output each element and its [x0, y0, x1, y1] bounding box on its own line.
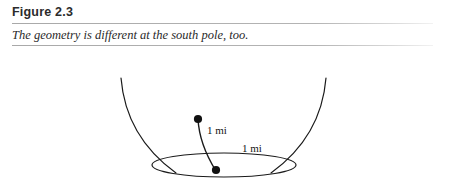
figure-page: Figure 2.3 The geometry is different at … — [0, 0, 458, 179]
header-rule-bottom — [12, 45, 433, 46]
lower-endpoint-dot — [212, 166, 220, 174]
figure-diagram: 1 mi 1 mi — [0, 55, 458, 179]
figure-caption: The geometry is different at the south p… — [12, 28, 248, 43]
header-rule-top — [12, 23, 433, 24]
figure-number: Figure 2.3 — [12, 5, 73, 19]
funnel-right-meridian — [271, 78, 326, 173]
radius-label: 1 mi — [207, 124, 227, 136]
funnel-left-meridian — [121, 78, 176, 173]
circle-one-mile — [152, 153, 296, 177]
upper-endpoint-dot — [194, 115, 202, 123]
circumference-label: 1 mi — [242, 142, 262, 154]
